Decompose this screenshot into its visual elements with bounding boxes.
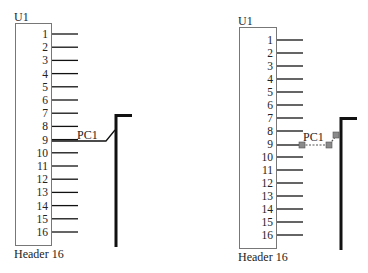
- left-pin-number: 1: [42, 28, 48, 40]
- left-pin-number: 6: [42, 94, 48, 106]
- left-pin-number: 4: [42, 68, 48, 80]
- right-pin-number: 7: [267, 112, 273, 124]
- left-pin-number: 3: [42, 54, 48, 66]
- wire-grip-end[interactable]: [333, 132, 339, 138]
- right-pin-list: 12345678910111213141516: [262, 34, 304, 241]
- right-pin-number: 5: [267, 86, 273, 98]
- right-designator[interactable]: U1: [238, 14, 253, 28]
- right-pin-number: 3: [267, 60, 273, 72]
- left-pin-list: 12345678910111213141516: [37, 28, 79, 238]
- right-pin-number: 6: [267, 99, 273, 111]
- left-bus-line[interactable]: [116, 116, 132, 248]
- left-schematic: U1 12345678910111213141516 Header 16 PC1: [14, 10, 132, 261]
- right-pin-number: 1: [267, 34, 273, 46]
- right-pin-number: 13: [262, 190, 274, 202]
- left-pin-number: 16: [37, 226, 49, 238]
- left-pin-number: 9: [42, 134, 48, 146]
- left-comment: Header 16: [14, 247, 64, 261]
- left-pin-number: 15: [37, 213, 49, 225]
- left-net-label[interactable]: PC1: [77, 128, 98, 142]
- right-pin-number: 8: [267, 125, 273, 137]
- left-pin-number: 5: [42, 81, 48, 93]
- left-designator[interactable]: U1: [14, 10, 29, 24]
- right-pin-number: 15: [262, 216, 274, 228]
- right-pin-number: 16: [262, 229, 274, 241]
- right-pin-number: 12: [262, 177, 274, 189]
- schematic-canvas: U1 12345678910111213141516 Header 16 PC1…: [0, 0, 368, 273]
- left-pin-number: 2: [42, 41, 48, 53]
- left-pin-number: 14: [37, 200, 49, 212]
- right-net-label[interactable]: PC1: [303, 130, 324, 144]
- right-pin-number: 4: [267, 73, 273, 85]
- right-pin-number: 11: [262, 164, 273, 176]
- wire-grip-start[interactable]: [299, 142, 305, 148]
- left-pin-number: 10: [37, 147, 49, 159]
- left-pin-number: 13: [37, 186, 49, 198]
- left-pin-number: 12: [37, 173, 49, 185]
- right-comment: Header 16: [238, 250, 288, 264]
- wire-grip-bend[interactable]: [326, 142, 332, 148]
- left-pin-number: 11: [37, 160, 48, 172]
- left-pin-number: 7: [42, 107, 48, 119]
- right-pin-number: 14: [262, 203, 274, 215]
- right-bus-line[interactable]: [341, 119, 357, 251]
- right-schematic: U1 12345678910111213141516 Header 16 PC1: [238, 14, 357, 264]
- right-pin-number: 10: [262, 151, 274, 163]
- right-pin-number: 2: [267, 47, 273, 59]
- right-pin-number: 9: [267, 138, 273, 150]
- left-pin-number: 8: [42, 120, 48, 132]
